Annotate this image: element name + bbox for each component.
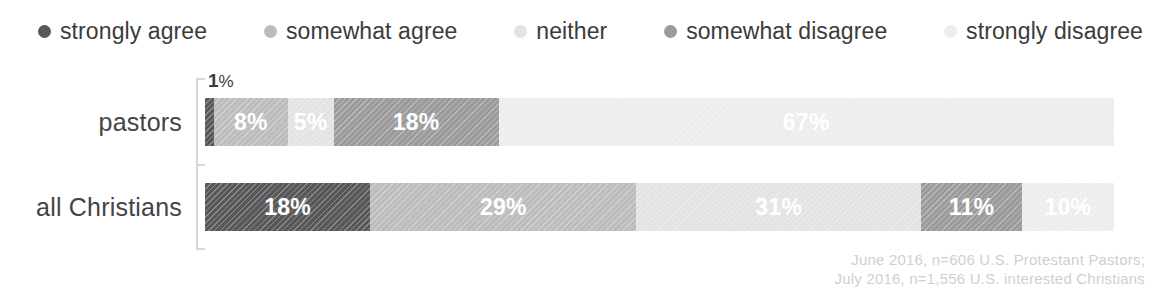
bar-segment-value: 29% <box>480 194 527 221</box>
bar-segment-somewhat-agree[interactable]: 29% <box>370 183 636 231</box>
callout-unit: % <box>219 72 234 91</box>
legend-item-label: strongly disagree <box>966 20 1143 43</box>
stacked-bar-chart: 1% pastors 1% 8% 5% 18% 67% all Christia… <box>0 70 1153 250</box>
bar-segment-somewhat-disagree[interactable]: 11% <box>921 183 1022 231</box>
axis-tick-top <box>196 78 205 80</box>
bar-segment-value: 10% <box>1044 194 1091 221</box>
bar-segment-strongly-agree[interactable]: 1% <box>205 98 214 146</box>
bar-segment-somewhat-disagree[interactable]: 18% <box>334 98 499 146</box>
chart-footnote: June 2016, n=606 U.S. Protestant Pastors… <box>625 250 1145 288</box>
legend-dot-icon <box>944 25 957 38</box>
category-label: all Christians <box>0 183 182 231</box>
legend-item-strongly-agree: strongly agree <box>38 20 207 43</box>
legend-dot-icon <box>38 25 51 38</box>
bar-segment-strongly-disagree[interactable]: 10% <box>1022 183 1114 231</box>
legend-item-neither: neither <box>514 20 607 43</box>
bar-segment-value: 31% <box>755 194 802 221</box>
bar-segment-somewhat-agree[interactable]: 8% <box>214 98 287 146</box>
axis-tick-middle <box>196 164 205 166</box>
callout-label-one-percent: 1% <box>208 70 234 92</box>
legend-item-label: strongly agree <box>60 20 207 43</box>
legend-item-somewhat-disagree: somewhat disagree <box>664 20 887 43</box>
bar-segment-value: 5% <box>294 109 328 136</box>
legend-dot-icon <box>264 25 277 38</box>
chart-legend: strongly agree somewhat agree neither so… <box>38 14 1143 48</box>
bar-segment-value: 11% <box>949 194 995 221</box>
axis-tick-bottom <box>196 248 205 250</box>
category-label: pastors <box>0 98 182 146</box>
footnote-line-2: July 2016, n=1,556 U.S. interested Chris… <box>625 269 1145 288</box>
bar-segment-strongly-disagree[interactable]: 67% <box>499 98 1114 146</box>
bar-segment-value: 18% <box>393 109 440 136</box>
stacked-bar: 1% 8% 5% 18% 67% <box>205 98 1123 146</box>
footnote-line-1: June 2016, n=606 U.S. Protestant Pastors… <box>625 250 1145 269</box>
bar-segment-neither[interactable]: 5% <box>288 98 334 146</box>
legend-item-label: somewhat agree <box>286 20 457 43</box>
legend-item-somewhat-agree: somewhat agree <box>264 20 457 43</box>
legend-item-label: somewhat disagree <box>686 20 887 43</box>
bar-segment-neither[interactable]: 31% <box>636 183 921 231</box>
legend-dot-icon <box>514 25 527 38</box>
legend-dot-icon <box>664 25 677 38</box>
bar-segment-value: 8% <box>234 109 268 136</box>
legend-item-label: neither <box>536 20 607 43</box>
bar-segment-value: 18% <box>264 194 311 221</box>
bar-segment-value: 67% <box>783 109 830 136</box>
stacked-bar: 18% 29% 31% 11% 10% <box>205 183 1123 231</box>
bar-segment-strongly-agree[interactable]: 18% <box>205 183 370 231</box>
chart-row-all-christians: all Christians 18% 29% 31% 11% 10% <box>0 183 1153 231</box>
callout-value: 1 <box>208 70 219 91</box>
chart-row-pastors: pastors 1% 8% 5% 18% 67% <box>0 98 1153 146</box>
legend-item-strongly-disagree: strongly disagree <box>944 20 1143 43</box>
